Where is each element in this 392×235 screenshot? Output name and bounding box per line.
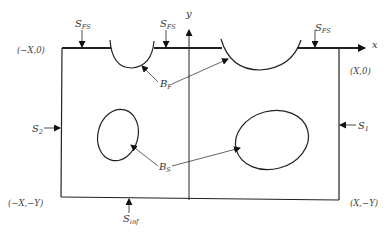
right-cavity-arc	[221, 39, 301, 70]
label-bs: BS	[131, 145, 240, 174]
svg-text:SFS: SFS	[75, 18, 91, 31]
corner-bottom-right: (X,−Y)	[350, 198, 378, 208]
corner-bottom-left: (−X,−Y)	[8, 198, 43, 208]
load-sfs-right: SFS	[315, 22, 331, 47]
svg-text:S1: S1	[358, 120, 369, 133]
svg-text:BS: BS	[158, 161, 171, 174]
svg-text:SFS: SFS	[315, 22, 331, 35]
load-s2: S2	[32, 123, 60, 136]
y-axis: y	[185, 8, 192, 200]
svg-text:Sinf: Sinf	[123, 213, 140, 226]
corner-top-left: (−X,0)	[17, 45, 45, 55]
x-axis-label: x	[372, 39, 378, 50]
load-sfs-middle: SFS	[160, 18, 176, 47]
corner-top-right: (X,0)	[350, 66, 371, 76]
svg-text:BF: BF	[159, 78, 172, 91]
svg-text:S2: S2	[32, 123, 43, 136]
right-inclusion	[229, 102, 315, 177]
domain-walls	[61, 48, 339, 200]
load-s1: S1	[340, 120, 369, 133]
left-inclusion	[92, 105, 144, 166]
svg-text:SFS: SFS	[160, 18, 176, 31]
boundary-diagram: x y (−X,0) (X,0) (−X,−Y) (X,−Y) SFS SFS …	[0, 0, 392, 235]
load-sinf: Sinf	[123, 199, 140, 226]
y-axis-label: y	[185, 8, 192, 19]
x-axis: x	[340, 39, 378, 50]
load-sfs-left: SFS	[75, 18, 91, 47]
left-cavity-arc	[110, 40, 154, 68]
label-bf: BF	[142, 59, 228, 91]
